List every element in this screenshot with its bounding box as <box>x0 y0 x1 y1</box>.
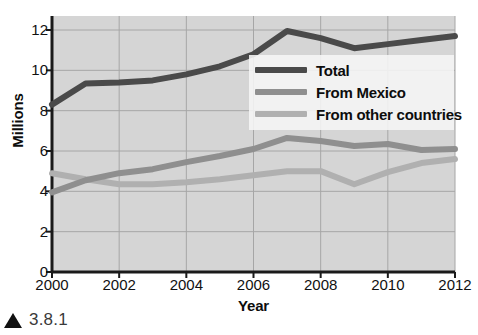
x-tick-label: 2008 <box>295 277 347 292</box>
figure-caption: 3.8.1 <box>4 310 68 330</box>
x-tick-label: 2012 <box>429 277 478 292</box>
chart-legend: TotalFrom MexicoFrom other countries <box>249 55 454 130</box>
x-tick-label: 2006 <box>228 277 280 292</box>
legend-swatch <box>255 89 307 95</box>
figure-container: Millions 024681012 200020022004200620082… <box>0 0 478 335</box>
caption-number: 3.8.1 <box>29 310 68 330</box>
legend-label: From Mexico <box>316 84 406 101</box>
x-tick-label: 2002 <box>93 277 145 292</box>
legend-item: From other countries <box>255 103 448 125</box>
x-axis-label: Year <box>52 297 455 314</box>
x-tick-label: 2010 <box>362 277 414 292</box>
x-tick-label: 2000 <box>26 277 78 292</box>
x-tick-label: 2004 <box>160 277 212 292</box>
legend-label: Total <box>316 62 349 79</box>
legend-item: Total <box>255 59 448 81</box>
triangle-marker-icon <box>4 313 22 328</box>
legend-swatch <box>255 67 307 73</box>
legend-item: From Mexico <box>255 81 448 103</box>
legend-label: From other countries <box>316 106 462 123</box>
x-axis-tick-labels: 2000200220042006200820102012 <box>0 0 478 335</box>
legend-swatch <box>255 111 307 117</box>
